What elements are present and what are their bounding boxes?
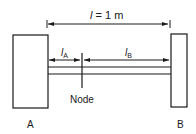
- segment-a-subscript: A: [63, 52, 68, 59]
- diagram-canvas: l = 1 m lA lB Node A B: [0, 0, 196, 134]
- rod: [48, 67, 171, 74]
- support-a-label: A: [27, 119, 34, 130]
- support-b: [171, 34, 187, 107]
- segment-b-subscript: B: [127, 52, 132, 59]
- support-b-label: B: [177, 119, 184, 130]
- total-length-dimension: [47, 20, 170, 28]
- segment-b-label: lB: [125, 47, 132, 59]
- total-length-value: = 1 m: [92, 9, 123, 21]
- segment-a-label: lA: [61, 47, 68, 59]
- total-length-label: l = 1 m: [90, 9, 123, 21]
- node-label: Node: [70, 94, 94, 105]
- support-a: [13, 35, 48, 108]
